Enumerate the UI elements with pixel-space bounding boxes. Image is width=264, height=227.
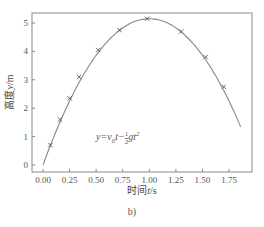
x-axis-title: 时间t/s <box>127 184 157 196</box>
x-tick-label: 0.50 <box>88 175 104 185</box>
x-marker-icon <box>77 75 81 79</box>
y-axis-title: 高度y/m <box>3 74 15 109</box>
data-markers <box>48 17 226 148</box>
x-tick-label: 1.00 <box>141 175 157 185</box>
y-tick-label: 5 <box>24 18 29 28</box>
x-tick-label: 1.25 <box>168 175 184 185</box>
y-tick-label: 4 <box>24 46 29 56</box>
x-tick-label: 0.00 <box>35 175 51 185</box>
figure-caption: b) <box>0 206 264 217</box>
plot-frame <box>32 13 252 172</box>
y-tick-label: 1 <box>24 132 29 142</box>
y-tick-label: 0 <box>24 160 29 170</box>
x-axis-ticks: 0.000.250.500.751.001.251.501.75 <box>35 169 237 185</box>
y-axis-ticks: 012345 <box>24 18 36 170</box>
formula-annotation: y=v0t−12gt2 <box>96 130 139 146</box>
x-tick-label: 0.75 <box>115 175 131 185</box>
trajectory-chart: 012345 0.000.250.500.751.001.251.501.75 … <box>0 0 264 200</box>
y-tick-label: 2 <box>24 103 29 113</box>
fit-curve <box>43 19 241 165</box>
x-tick-label: 0.25 <box>62 175 78 185</box>
x-marker-icon <box>179 29 183 33</box>
x-marker-icon <box>117 28 121 32</box>
x-tick-label: 1.75 <box>221 175 237 185</box>
y-tick-label: 3 <box>24 75 29 85</box>
x-tick-label: 1.50 <box>195 175 211 185</box>
